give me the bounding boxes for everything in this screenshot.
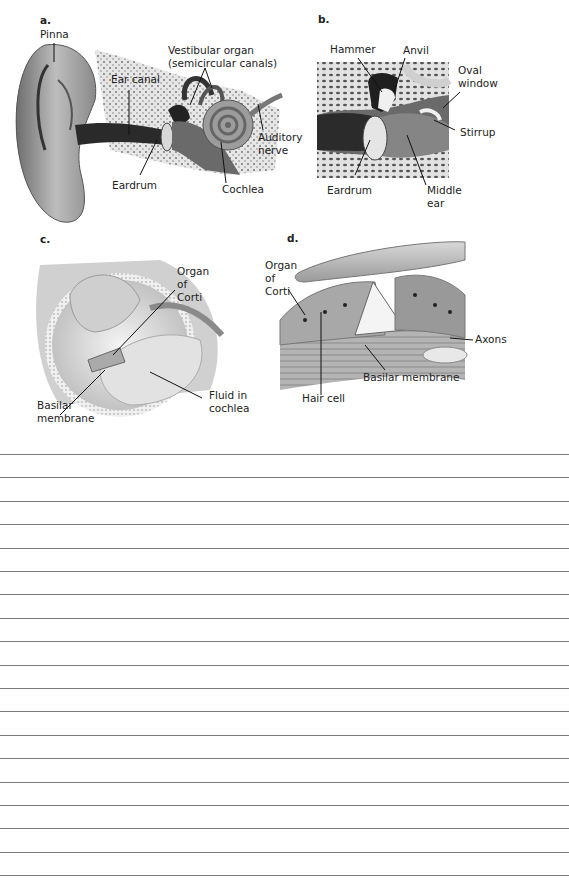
answer-line[interactable]: [0, 571, 569, 572]
label-of-d: of: [265, 272, 275, 285]
answer-line[interactable]: [0, 782, 569, 783]
label-nerve: nerve: [258, 144, 288, 157]
label-ear-canal: Ear canal: [111, 73, 160, 86]
label-hair-cell: Hair cell: [302, 392, 345, 405]
answer-line[interactable]: [0, 758, 569, 759]
panel-c-cochlea-section: c. Organ of Corti Basilar membrane Fluid…: [0, 220, 290, 435]
answer-line[interactable]: [0, 548, 569, 549]
label-basilar-c: Basilar: [37, 399, 73, 412]
label-oval: Oval: [458, 64, 482, 77]
answer-line[interactable]: [0, 665, 569, 666]
label-vestibular-organ: Vestibular organ: [168, 44, 254, 57]
panel-d-organ-of-corti: d. Organ of Corti Axons Basilar membrane…: [265, 220, 569, 435]
answer-line[interactable]: [0, 641, 569, 642]
answer-line[interactable]: [0, 501, 569, 502]
label-hammer: Hammer: [330, 43, 376, 56]
label-auditory: Auditory: [258, 131, 303, 144]
label-organ-c: Organ: [177, 265, 209, 278]
label-fluid: Fluid in: [209, 389, 247, 402]
worksheet-page: a. Pinna Ear canal Vestibular organ (sem…: [0, 0, 569, 882]
label-semicircular-canals: (semicircular canals): [168, 57, 277, 70]
label-membrane-c: membrane: [37, 412, 94, 425]
answer-line[interactable]: [0, 852, 569, 853]
answer-line[interactable]: [0, 805, 569, 806]
panel-letter-c: c.: [40, 233, 50, 245]
panel-a-ear-anatomy: a. Pinna Ear canal Vestibular organ (sem…: [0, 0, 305, 230]
label-stirrup: Stirrup: [460, 126, 495, 139]
answer-line[interactable]: [0, 594, 569, 595]
answer-line[interactable]: [0, 477, 569, 478]
answer-line[interactable]: [0, 454, 569, 455]
panel-letter-a: a.: [40, 14, 51, 26]
label-organ-d: Organ: [265, 259, 297, 272]
answer-line[interactable]: [0, 524, 569, 525]
label-cochlea: Cochlea: [222, 183, 264, 196]
answer-line[interactable]: [0, 688, 569, 689]
panel-b-middle-ear: b. Hammer Anvil Oval window Stirrup Eard…: [300, 0, 569, 230]
answer-line[interactable]: [0, 735, 569, 736]
panel-letter-b: b.: [318, 13, 330, 25]
label-pinna: Pinna: [40, 28, 69, 41]
label-basilar-membrane-d: Basilar membrane: [363, 371, 459, 384]
label-of-c: of: [177, 278, 187, 291]
answer-line[interactable]: [0, 711, 569, 712]
label-eardrum-b: Eardrum: [327, 184, 372, 197]
label-ear: ear: [427, 197, 444, 210]
answer-line[interactable]: [0, 828, 569, 829]
label-window: window: [458, 77, 498, 90]
answer-line[interactable]: [0, 618, 569, 619]
label-middle: Middle: [427, 184, 462, 197]
answer-line[interactable]: [0, 875, 569, 876]
label-eardrum-a: Eardrum: [112, 179, 157, 192]
label-anvil: Anvil: [403, 44, 429, 57]
label-corti-d: Corti: [265, 285, 290, 298]
label-in-cochlea: cochlea: [209, 402, 249, 415]
label-corti-c: Corti: [177, 291, 202, 304]
label-axons: Axons: [475, 333, 507, 346]
panel-letter-d: d.: [287, 232, 299, 244]
